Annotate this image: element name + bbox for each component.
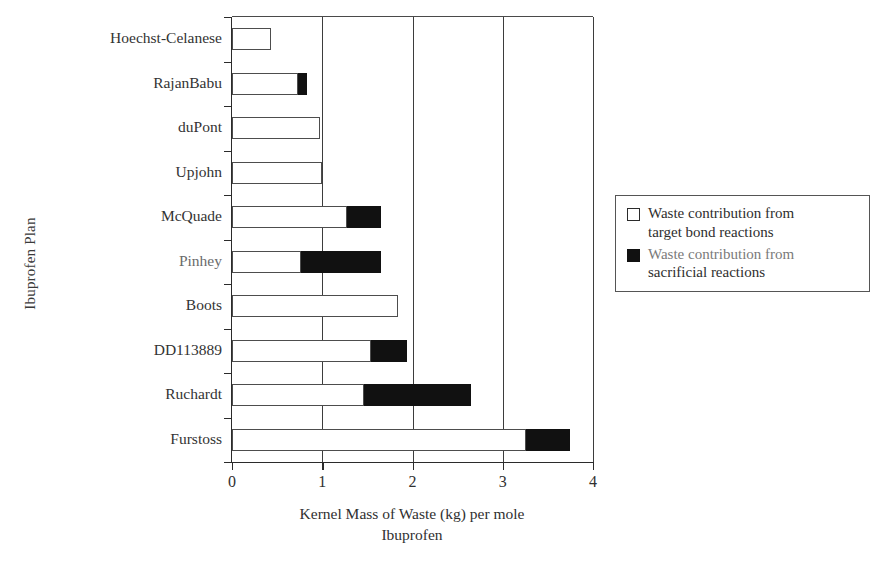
y-category-label: Upjohn bbox=[176, 164, 223, 180]
x-tick-4 bbox=[593, 462, 594, 470]
bar-segment-target-bond bbox=[232, 73, 298, 95]
y-tick bbox=[224, 284, 232, 285]
legend-label: Waste contribution fromtarget bond react… bbox=[648, 204, 794, 242]
bar-segment-target-bond bbox=[232, 28, 271, 50]
y-tick bbox=[224, 373, 232, 374]
y-tick bbox=[224, 462, 232, 463]
category-row: duPont bbox=[232, 106, 593, 151]
y-tick bbox=[224, 418, 232, 419]
category-row: RajanBabu bbox=[232, 62, 593, 107]
open-square-icon bbox=[627, 208, 640, 221]
y-axis-title: Ibuprofen Plan bbox=[22, 174, 39, 354]
y-category-label: Ruchardt bbox=[165, 386, 222, 402]
x-axis-title-line1: Kernel Mass of Waste (kg) per mole bbox=[192, 504, 632, 525]
category-row: Furstoss bbox=[232, 418, 593, 463]
bar-segment-sacrificial bbox=[298, 73, 307, 95]
y-tick bbox=[224, 62, 232, 63]
bar-segment-sacrificial bbox=[301, 251, 381, 273]
x-ticklabel-0: 0 bbox=[212, 473, 252, 491]
y-category-label: Hoechst-Celanese bbox=[110, 30, 222, 46]
gridline-x-4 bbox=[593, 17, 594, 462]
x-axis-title: Kernel Mass of Waste (kg) per mole Ibupr… bbox=[192, 504, 632, 546]
bar-segment-sacrificial bbox=[364, 384, 471, 406]
legend-label: Waste contribution fromsacrificial react… bbox=[648, 245, 794, 283]
x-tick-3 bbox=[503, 462, 504, 470]
bar-segment-target-bond bbox=[232, 162, 322, 184]
x-tick-1 bbox=[322, 462, 323, 470]
x-ticklabel-1: 1 bbox=[302, 473, 342, 491]
y-tick bbox=[224, 195, 232, 196]
bar-segment-target-bond bbox=[232, 384, 364, 406]
y-category-label: duPont bbox=[178, 119, 222, 135]
x-tick-0 bbox=[232, 462, 233, 470]
y-tick bbox=[224, 329, 232, 330]
category-row: Upjohn bbox=[232, 151, 593, 196]
legend-label-line1: Waste contribution from bbox=[648, 205, 794, 221]
x-ticklabel-3: 3 bbox=[483, 473, 523, 491]
legend-label-line2: target bond reactions bbox=[648, 224, 774, 240]
legend-label-line1: Waste contribution from bbox=[648, 246, 794, 262]
category-row: Boots bbox=[232, 284, 593, 329]
y-tick bbox=[224, 17, 232, 18]
bar-segment-target-bond bbox=[232, 117, 320, 139]
bar-segment-target-bond bbox=[232, 251, 301, 273]
chart-figure: Ibuprofen Plan Hoechst-CelaneseRajanBabu… bbox=[0, 0, 896, 577]
y-tick bbox=[224, 240, 232, 241]
y-category-label: RajanBabu bbox=[153, 75, 222, 91]
y-tick bbox=[224, 151, 232, 152]
x-ticklabel-2: 2 bbox=[393, 473, 433, 491]
x-tick-2 bbox=[413, 462, 414, 470]
category-row: DD113889 bbox=[232, 329, 593, 374]
plot-area: Hoechst-CelaneseRajanBabuduPontUpjohnMcQ… bbox=[232, 17, 593, 462]
y-category-label: DD113889 bbox=[154, 342, 222, 358]
bar-segment-target-bond bbox=[232, 429, 526, 451]
y-category-label: Furstoss bbox=[170, 431, 222, 447]
category-row: Hoechst-Celanese bbox=[232, 17, 593, 62]
x-ticklabel-4: 4 bbox=[573, 473, 613, 491]
y-category-label: Boots bbox=[186, 297, 222, 313]
x-axis-title-line2: Ibuprofen bbox=[192, 525, 632, 546]
y-tick bbox=[224, 106, 232, 107]
filled-square-icon bbox=[627, 249, 640, 262]
category-row: Ruchardt bbox=[232, 373, 593, 418]
legend-entry: Waste contribution fromsacrificial react… bbox=[627, 245, 859, 283]
bar-segment-sacrificial bbox=[347, 206, 381, 228]
y-category-label: Pinhey bbox=[179, 253, 222, 269]
category-row: McQuade bbox=[232, 195, 593, 240]
y-category-label: McQuade bbox=[161, 208, 222, 224]
bar-segment-target-bond bbox=[232, 295, 398, 317]
category-row: Pinhey bbox=[232, 240, 593, 285]
legend-entry: Waste contribution fromtarget bond react… bbox=[627, 204, 859, 242]
legend-label-line2: sacrificial reactions bbox=[648, 264, 765, 280]
bar-segment-target-bond bbox=[232, 340, 371, 362]
bar-segment-sacrificial bbox=[526, 429, 569, 451]
legend-box: Waste contribution fromtarget bond react… bbox=[615, 195, 870, 292]
bar-segment-target-bond bbox=[232, 206, 347, 228]
bar-segment-sacrificial bbox=[371, 340, 407, 362]
